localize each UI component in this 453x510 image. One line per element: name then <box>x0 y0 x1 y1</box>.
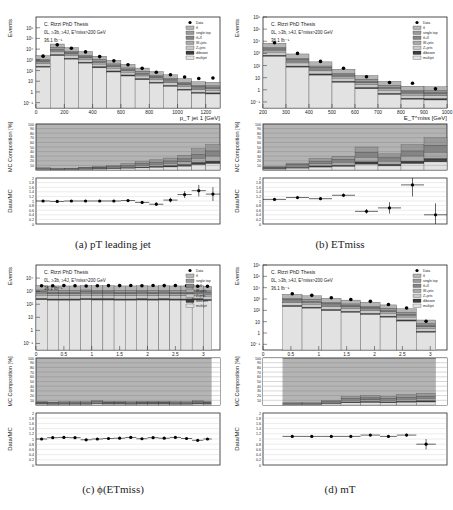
ratio-point <box>163 437 166 440</box>
svg-text:10²: 10² <box>253 308 260 313</box>
panel-c-phi-etmiss: 10⁻¹11010²10³10⁴00.511.522.53ϕ_{E_T^miss… <box>0 255 226 510</box>
ratio-point <box>296 196 299 199</box>
svg-text:40: 40 <box>257 150 261 154</box>
svg-text:1.8: 1.8 <box>29 417 34 421</box>
svg-text:1: 1 <box>259 200 261 204</box>
svg-text:1: 1 <box>30 90 33 95</box>
svg-text:1.6: 1.6 <box>256 422 261 426</box>
caption-a: (a) pT leading jet <box>0 238 226 250</box>
svg-text:1.4: 1.4 <box>29 190 34 194</box>
svg-text:10⁵: 10⁵ <box>253 27 260 32</box>
svg-text:1.6: 1.6 <box>29 186 34 190</box>
svg-text:0.4: 0.4 <box>29 453 34 457</box>
ratio-point <box>197 189 200 192</box>
svg-text:400: 400 <box>89 110 97 115</box>
svg-text:0.8: 0.8 <box>29 443 34 447</box>
ratio-point <box>365 210 368 213</box>
svg-text:2: 2 <box>259 177 261 181</box>
svg-text:1: 1 <box>32 200 34 204</box>
svg-text:1.6: 1.6 <box>29 422 34 426</box>
svg-text:1.8: 1.8 <box>256 181 261 185</box>
svg-text:20: 20 <box>30 394 34 398</box>
legend-entry: multijet <box>196 56 207 60</box>
legend-entry: Z+jets <box>423 294 433 298</box>
svg-text:90: 90 <box>30 127 34 131</box>
data-point <box>405 306 409 310</box>
svg-text:60: 60 <box>257 141 261 145</box>
data-point <box>40 284 44 288</box>
legend-entry: diboson <box>423 299 435 303</box>
svg-text:1: 1 <box>257 331 260 336</box>
ratio-point <box>211 193 214 196</box>
data-point <box>424 319 428 323</box>
svg-text:800: 800 <box>145 110 153 115</box>
svg-text:10⁴: 10⁴ <box>26 47 33 52</box>
data-point <box>62 284 66 288</box>
data-point <box>319 60 323 64</box>
ratio-point <box>310 435 313 438</box>
data-point <box>169 73 173 77</box>
annotation-thesis: C. Rizzi PhD Thesis <box>271 21 316 27</box>
composition-y-label: MC Composition [%] <box>7 121 13 172</box>
svg-text:0.6: 0.6 <box>29 209 34 213</box>
svg-text:40: 40 <box>30 150 34 154</box>
ratio-point <box>107 437 110 440</box>
ratio-point <box>96 437 99 440</box>
svg-text:1.2: 1.2 <box>29 195 34 199</box>
panel-a-pt-leading-jet: 10⁻¹11010²10³10⁴10⁵10⁶020040060080010001… <box>0 0 226 255</box>
data-point <box>55 43 59 47</box>
svg-text:90: 90 <box>257 127 261 131</box>
svg-text:10²: 10² <box>26 302 33 307</box>
svg-text:10²: 10² <box>253 64 260 69</box>
svg-text:0.2: 0.2 <box>256 218 261 222</box>
svg-text:20: 20 <box>257 394 261 398</box>
data-point <box>365 75 369 79</box>
annotation-lumi: 36.1 fb⁻¹ <box>271 286 290 291</box>
svg-text:60: 60 <box>30 375 34 379</box>
legend-entry: multijet <box>423 56 434 60</box>
data-point <box>84 284 88 288</box>
data-point <box>112 59 116 63</box>
chart-a: 10⁻¹11010²10³10⁴10⁵10⁶020040060080010001… <box>0 0 226 240</box>
composition-y-label: MC Composition [%] <box>7 356 13 407</box>
svg-text:2: 2 <box>32 412 34 416</box>
ratio-point <box>112 199 115 202</box>
svg-text:70: 70 <box>257 371 261 375</box>
ratio-point <box>273 198 276 201</box>
ratio-point <box>369 434 372 437</box>
data-point <box>107 284 111 288</box>
svg-text:40: 40 <box>257 385 261 389</box>
data-point <box>411 81 415 85</box>
svg-text:80: 80 <box>257 366 261 370</box>
svg-text:10³: 10³ <box>253 51 260 56</box>
ratio-point <box>388 206 391 209</box>
y-axis-label: Events <box>234 19 240 37</box>
annotation-thesis: C. Rizzi PhD Thesis <box>271 269 316 275</box>
ratio-point <box>434 213 437 216</box>
ratio-point <box>342 194 345 197</box>
ratio-point <box>183 193 186 196</box>
svg-text:50: 50 <box>30 146 34 150</box>
ratio-point <box>41 199 44 202</box>
svg-text:100: 100 <box>255 357 261 361</box>
data-point <box>41 54 45 58</box>
svg-text:50: 50 <box>30 380 34 384</box>
svg-text:70: 70 <box>30 136 34 140</box>
svg-text:1.5: 1.5 <box>343 352 350 357</box>
svg-text:0.8: 0.8 <box>29 204 34 208</box>
svg-text:10: 10 <box>255 76 261 81</box>
legend-entry: W+jets <box>196 289 207 293</box>
ratio-point <box>70 199 73 202</box>
svg-text:1.4: 1.4 <box>256 190 261 194</box>
ratio-point <box>411 183 414 186</box>
chart-c: 10⁻¹11010²10³10⁴00.511.522.53ϕ_{E_T^miss… <box>0 255 226 485</box>
ratio-point <box>387 435 390 438</box>
svg-text:10⁵: 10⁵ <box>253 274 260 279</box>
svg-text:0: 0 <box>259 464 261 468</box>
svg-text:0: 0 <box>35 110 38 115</box>
data-point <box>140 284 144 288</box>
svg-text:200: 200 <box>60 110 68 115</box>
svg-text:100: 100 <box>255 123 261 127</box>
svg-text:400: 400 <box>305 110 313 115</box>
legend-entry: diboson <box>196 51 208 55</box>
